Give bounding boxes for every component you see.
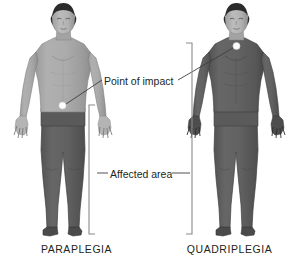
impact-dot-paraplegia (59, 102, 66, 109)
bracket-quadriplegia (186, 43, 192, 234)
impact-dot-quadriplegia (233, 42, 240, 49)
figure-quadriplegia (187, 3, 285, 236)
figure-paraplegia (14, 3, 112, 236)
quadriplegia-left-hand (187, 116, 201, 138)
affected-area-brackets (89, 43, 192, 234)
paraplegia-right-hand (98, 116, 112, 138)
quadriplegia-right-hand (271, 116, 285, 138)
spinal-injury-illustration: Point of impact Affected area PARAPLEGIA… (0, 0, 306, 259)
bracket-paraplegia (89, 105, 95, 234)
caption-paraplegia: PARAPLEGIA (0, 243, 153, 255)
paraplegia-torso (34, 36, 92, 112)
quadriplegia-affected-legs (214, 108, 258, 236)
caption-quadriplegia: QUADRIPLEGIA (153, 243, 306, 255)
quadriplegia-head (224, 3, 250, 40)
paraplegia-head (51, 3, 77, 40)
illustration-canvas (0, 0, 306, 259)
point-of-impact-label: Point of impact (104, 75, 173, 87)
paraplegia-left-hand (14, 116, 28, 138)
affected-area-label: Affected area (110, 168, 172, 180)
paraplegia-affected-legs (41, 108, 85, 236)
